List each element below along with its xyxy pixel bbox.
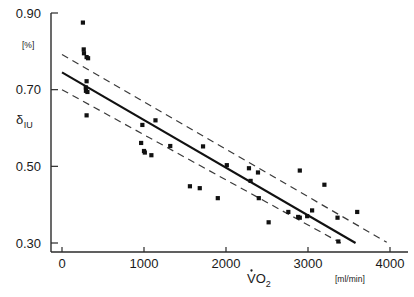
data-point — [267, 220, 271, 224]
data-point — [305, 214, 309, 218]
data-point — [336, 239, 340, 243]
upper-confidence-band — [62, 54, 387, 242]
data-point — [140, 123, 144, 127]
x-tick-label-1000: 1000 — [130, 256, 159, 271]
x-tick-label-2000: 2000 — [212, 256, 241, 271]
data-point — [322, 183, 326, 187]
y-axis-title-subscript: IU — [24, 120, 33, 130]
y-tick-label-0.90: 0.90 — [16, 6, 41, 21]
data-point — [139, 141, 143, 145]
data-point — [247, 166, 251, 170]
x-axis-title: VO2 — [247, 271, 271, 289]
data-point — [249, 179, 253, 183]
data-point — [198, 186, 202, 190]
data-point — [168, 144, 172, 148]
lower-confidence-band — [62, 90, 341, 243]
x-tick-label-4000: 4000 — [376, 256, 405, 271]
x-tick-label-3000: 3000 — [294, 256, 323, 271]
data-point — [298, 168, 302, 172]
data-point — [201, 144, 205, 148]
y-axis-title: δIU — [16, 112, 33, 130]
data-point — [85, 113, 89, 117]
data-point — [257, 196, 261, 200]
y-tick-label-0.70: 0.70 — [16, 82, 41, 97]
data-point — [256, 170, 260, 174]
data-point — [85, 90, 89, 94]
data-point — [298, 216, 302, 220]
data-point — [225, 163, 229, 167]
data-point — [335, 216, 339, 220]
regression-line — [62, 72, 356, 243]
data-point — [85, 79, 89, 83]
y-tick-label-0.50: 0.50 — [16, 159, 41, 174]
data-point — [355, 210, 359, 214]
y-axis-unit-label: [%] — [22, 40, 34, 50]
scatter-plot-figure: 0.300.500.700.9001000200030004000[%]δIUV… — [0, 0, 414, 297]
data-point — [82, 47, 86, 51]
data-point — [143, 150, 147, 154]
x-axis-title-overdot — [250, 269, 252, 271]
x-axis-unit-label: [ml/min] — [335, 274, 365, 284]
data-point — [188, 184, 192, 188]
data-point — [149, 153, 153, 157]
data-point — [86, 56, 90, 60]
data-point — [81, 20, 85, 24]
data-point — [82, 51, 86, 55]
x-tick-label-0: 0 — [58, 256, 65, 271]
data-point — [286, 210, 290, 214]
data-point — [153, 118, 157, 122]
y-tick-label-0.30: 0.30 — [16, 236, 41, 251]
chart-canvas: 0.300.500.700.9001000200030004000[%]δIUV… — [0, 0, 414, 297]
data-point — [310, 208, 314, 212]
data-point — [216, 196, 220, 200]
